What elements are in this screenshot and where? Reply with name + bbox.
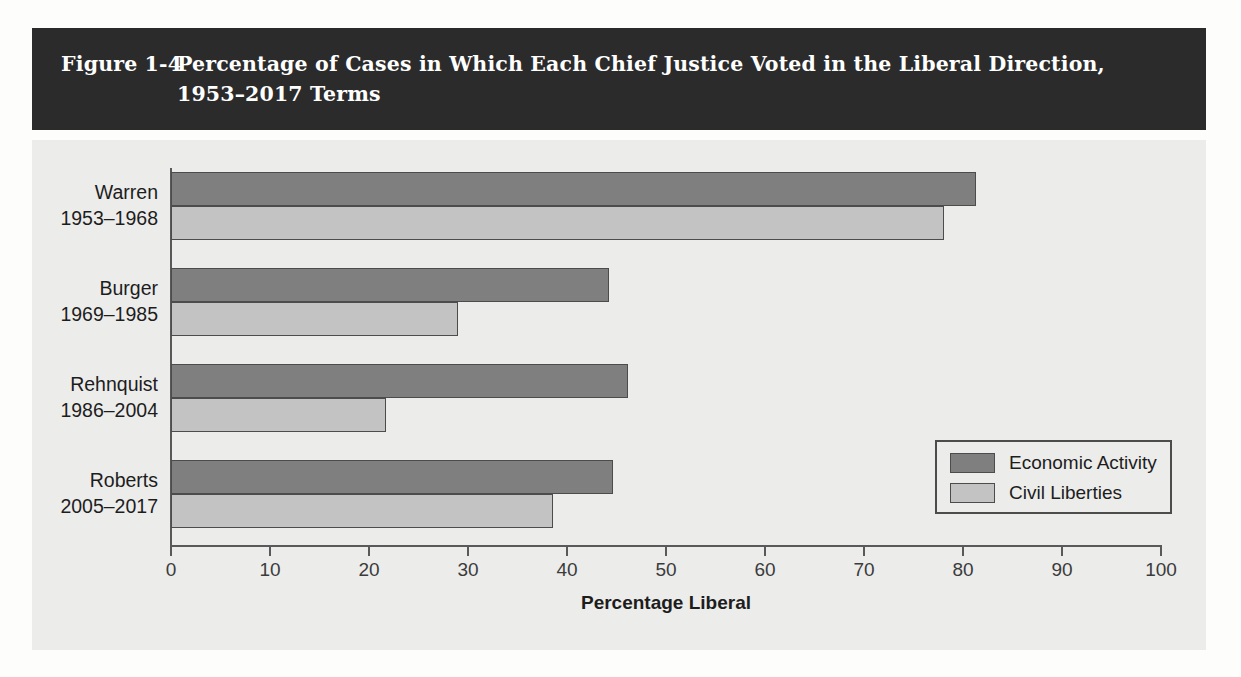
x-axis-tick-label: 50: [655, 559, 676, 581]
y-axis-label-rehnquist: Rehnquist1986–2004: [60, 371, 158, 423]
x-axis-tick: [764, 547, 766, 556]
y-axis-label-burger: Burger1969–1985: [60, 275, 158, 327]
y-axis-label-name: Burger: [60, 275, 158, 301]
y-axis-label-years: 2005–2017: [60, 493, 158, 519]
x-axis-tick-label: 80: [952, 559, 973, 581]
x-axis-tick: [665, 547, 667, 556]
figure-title-banner: Figure 1-4Percentage of Cases in Which E…: [32, 28, 1206, 130]
x-axis-tick-label: 100: [1145, 559, 1177, 581]
y-axis-label-roberts: Roberts2005–2017: [60, 467, 158, 519]
chart-plot-area: 0102030405060708090100 Warren1953–1968Bu…: [32, 140, 1206, 650]
bar-roberts-economic-activity: [171, 460, 613, 494]
bar-warren-economic-activity: [171, 172, 976, 206]
y-axis-label-years: 1986–2004: [60, 397, 158, 423]
chart-legend: Economic Activity Civil Liberties: [935, 440, 1172, 514]
x-axis-tick-label: 20: [358, 559, 379, 581]
figure-title-text: Figure 1-4Percentage of Cases in Which E…: [61, 49, 1192, 109]
bar-rehnquist-economic-activity: [171, 364, 628, 398]
legend-label-economic-activity: Economic Activity: [1009, 452, 1157, 474]
x-axis-tick: [962, 547, 964, 556]
legend-item-economic-activity: Economic Activity: [950, 450, 1157, 476]
x-axis-tick: [170, 547, 172, 556]
y-axis-label-name: Warren: [60, 179, 158, 205]
x-axis-tick-label: 30: [457, 559, 478, 581]
x-axis-tick-label: 90: [1051, 559, 1072, 581]
legend-label-civil-liberties: Civil Liberties: [1009, 482, 1122, 504]
x-axis-tick: [566, 547, 568, 556]
legend-item-civil-liberties: Civil Liberties: [950, 480, 1122, 506]
y-axis-label-years: 1953–1968: [60, 205, 158, 231]
legend-swatch-civil-liberties: [950, 483, 995, 503]
bar-burger-economic-activity: [171, 268, 609, 302]
bar-burger-civil-liberties: [171, 302, 458, 336]
x-axis-tick: [1160, 547, 1162, 556]
x-axis-tick: [269, 547, 271, 556]
x-axis-tick-label: 70: [853, 559, 874, 581]
figure-container: Figure 1-4Percentage of Cases in Which E…: [0, 0, 1241, 677]
figure-number: Figure 1-4: [61, 49, 177, 79]
figure-title-line-1: Figure 1-4Percentage of Cases in Which E…: [61, 49, 1192, 79]
x-axis-tick-label: 10: [259, 559, 280, 581]
bar-roberts-civil-liberties: [171, 494, 553, 528]
x-axis-tick: [368, 547, 370, 556]
x-axis-tick: [1061, 547, 1063, 556]
figure-caption-line-1: Percentage of Cases in Which Each Chief …: [177, 49, 1105, 79]
x-axis-title: Percentage Liberal: [170, 592, 1162, 614]
y-axis-label-warren: Warren1953–1968: [60, 179, 158, 231]
x-axis-tick-label: 40: [556, 559, 577, 581]
y-axis-label-name: Roberts: [60, 467, 158, 493]
x-axis-tick-label: 60: [754, 559, 775, 581]
x-axis-tick-label: 0: [166, 559, 177, 581]
legend-swatch-economic-activity: [950, 453, 995, 473]
x-axis-tick: [863, 547, 865, 556]
bar-warren-civil-liberties: [171, 206, 944, 240]
figure-title-line-2: 1953–2017 Terms: [61, 79, 1192, 109]
figure-caption-line-2: 1953–2017 Terms: [177, 79, 1192, 109]
x-axis-tick: [467, 547, 469, 556]
y-axis-label-name: Rehnquist: [60, 371, 158, 397]
y-axis-label-years: 1969–1985: [60, 301, 158, 327]
bar-rehnquist-civil-liberties: [171, 398, 386, 432]
